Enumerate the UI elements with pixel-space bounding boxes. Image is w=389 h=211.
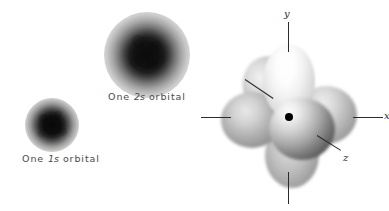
- orbital-1s-dot-grain: [25, 98, 79, 152]
- orbital-2s-cloud: [104, 12, 190, 98]
- axis-left-line: [201, 117, 231, 118]
- orbital-2s-dot-grain: [104, 12, 190, 98]
- caption-2s-orbital: One 2s orbital: [108, 91, 186, 102]
- caption-2s-prefix: One: [108, 91, 134, 102]
- nucleus-dot: [285, 113, 293, 121]
- axis-label-y: y: [284, 8, 290, 19]
- caption-1s-orbital: One 1s orbital: [22, 153, 100, 164]
- orbitals-figure: One 1s orbital One 2s orbital y x z: [0, 0, 389, 211]
- axis-down-line: [288, 172, 289, 204]
- orbital-1s-cloud: [25, 98, 79, 152]
- axis-label-x: x: [384, 110, 389, 121]
- p-lobe-z-positive: [269, 98, 335, 160]
- caption-1s-prefix: One: [22, 153, 48, 164]
- p-orbital-set: y x z: [195, 0, 389, 211]
- caption-1s-orbital-name: 1s: [48, 153, 59, 164]
- caption-2s-suffix: orbital: [145, 91, 186, 102]
- caption-2s-orbital-name: 2s: [134, 91, 145, 102]
- axis-x-line: [353, 117, 383, 118]
- caption-1s-suffix: orbital: [59, 153, 100, 164]
- axis-label-z: z: [343, 152, 348, 163]
- axis-y-line: [288, 22, 289, 52]
